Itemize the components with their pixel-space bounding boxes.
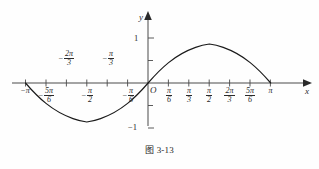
fraction-neg-pi-6: π6 bbox=[128, 87, 134, 104]
fraction-denominator: 3 bbox=[108, 59, 114, 67]
y-axis-label: y bbox=[139, 12, 143, 22]
minus-sign-neg-pi-2: − bbox=[81, 92, 86, 100]
xtick-label-neg-pi-6: −π6 bbox=[116, 87, 140, 104]
sine-plot-svg bbox=[0, 0, 319, 140]
ytick-label-neg-one: −1 bbox=[128, 122, 137, 132]
fraction-neg-pi-3: π3 bbox=[108, 50, 114, 67]
origin-label: O bbox=[150, 85, 157, 95]
fraction-5pi-6: 5π6 bbox=[245, 87, 255, 104]
xtick-label-neg-pi-3: −π3 bbox=[96, 50, 120, 67]
fraction-denominator: 3 bbox=[186, 96, 192, 104]
figure-container: −π −5π6 −2π3 −π2 −π3 −π6 π6 π3 π2 2π3 bbox=[0, 0, 319, 169]
xtick-text-neg-pi: −π bbox=[20, 86, 29, 95]
ytick-label-one: 1 bbox=[134, 33, 138, 43]
xtick-label-pi-6: π6 bbox=[161, 87, 177, 104]
fraction-pi-6: π6 bbox=[166, 87, 172, 104]
xtick-text-pi: π bbox=[268, 86, 272, 95]
xtick-label-pi-3: π3 bbox=[181, 87, 197, 104]
fraction-denominator: 6 bbox=[128, 96, 134, 104]
plot-area: −π −5π6 −2π3 −π2 −π3 −π6 π6 π3 π2 2π3 bbox=[0, 0, 319, 140]
figure-caption: 图 3-13 bbox=[0, 143, 319, 156]
minus-sign-neg-pi-6: − bbox=[122, 92, 127, 100]
fraction-denominator: 6 bbox=[166, 96, 172, 104]
xtick-label-5pi-6: 5π6 bbox=[240, 87, 260, 104]
fraction-neg-pi-2: π2 bbox=[87, 87, 93, 104]
xtick-label-pi-2: π2 bbox=[201, 87, 217, 104]
fraction-denominator: 6 bbox=[245, 96, 255, 104]
xtick-label-2pi-3: 2π3 bbox=[220, 87, 239, 104]
fraction-denominator: 6 bbox=[44, 96, 54, 104]
minus-sign-neg-2pi-3: − bbox=[58, 55, 63, 63]
minus-sign-neg-pi-3: − bbox=[102, 55, 107, 63]
x-axis-label: x bbox=[305, 86, 309, 96]
fraction-pi-2: π2 bbox=[206, 87, 212, 104]
fraction-2pi-3: 2π3 bbox=[224, 87, 234, 104]
minus-sign-neg-5pi-6: − bbox=[38, 92, 43, 100]
fraction-denominator: 2 bbox=[206, 96, 212, 104]
y-axis-arrow bbox=[144, 11, 152, 20]
fraction-denominator: 3 bbox=[224, 96, 234, 104]
fraction-neg-2pi-3: 2π3 bbox=[64, 50, 74, 67]
fraction-pi-3: π3 bbox=[186, 87, 192, 104]
xtick-label-pi: π bbox=[263, 87, 278, 95]
xtick-label-neg-pi-2: −π2 bbox=[75, 87, 99, 104]
xtick-label-neg-2pi-3: −2π3 bbox=[53, 50, 79, 67]
fraction-neg-5pi-6: 5π6 bbox=[44, 87, 54, 104]
xtick-label-neg-5pi-6: −5π6 bbox=[33, 87, 59, 104]
fraction-denominator: 3 bbox=[64, 59, 74, 67]
fraction-denominator: 2 bbox=[87, 96, 93, 104]
